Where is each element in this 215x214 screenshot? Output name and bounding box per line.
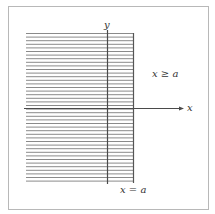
region-label: x ≥ a [152, 68, 178, 79]
x-axis-label: x [187, 102, 193, 113]
y-axis-label: y [103, 19, 110, 30]
diagram-canvas: y x x ≥ a x = a [0, 0, 215, 214]
boundary-label: x = a [120, 184, 146, 195]
